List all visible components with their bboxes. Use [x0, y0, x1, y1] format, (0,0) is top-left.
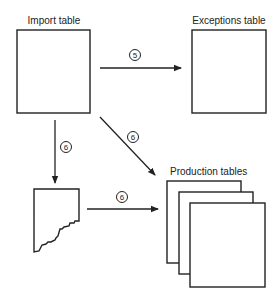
torn-document-node — [34, 189, 79, 252]
import-table-box — [17, 30, 90, 113]
step-number: 5 — [133, 51, 138, 60]
exceptions-table-node: Exceptions table — [192, 15, 266, 113]
step-number: 6 — [120, 193, 125, 202]
step-number: 6 — [64, 143, 69, 152]
step-number: 6 — [131, 133, 136, 142]
production-tables-node: Production tables — [167, 166, 265, 287]
import-table-label: Import table — [28, 15, 81, 26]
torn-document-icon — [34, 189, 79, 252]
edge-import-to-exceptions: 5 — [100, 50, 181, 69]
arrow-diagonal-icon — [100, 117, 155, 175]
production-table-sheet-front — [190, 203, 265, 287]
edge-import-to-production: 6 — [100, 117, 155, 175]
import-table-node: Import table — [17, 15, 90, 113]
edge-import-to-torn-doc: 6 — [55, 120, 72, 183]
edge-torn-doc-to-production: 6 — [87, 192, 158, 210]
exceptions-table-label: Exceptions table — [192, 15, 266, 26]
production-tables-label: Production tables — [170, 166, 247, 177]
data-flow-diagram: Import table Exceptions table 5 6 6 6 Pr… — [0, 0, 280, 301]
exceptions-table-box — [192, 30, 266, 113]
